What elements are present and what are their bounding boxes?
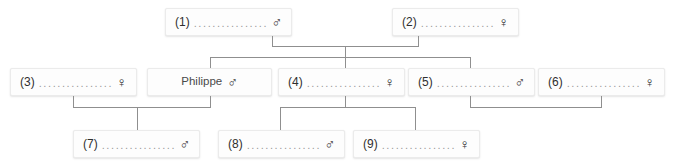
leader-dots: ................. xyxy=(567,77,641,88)
union1-child-drop-4 xyxy=(345,57,346,68)
union1-child-drop-philippe xyxy=(210,57,211,68)
union3-child-drop-8 xyxy=(280,107,281,130)
person-node-3[interactable]: (3) ................. ♀ xyxy=(10,68,137,96)
leader-dots: ................. xyxy=(421,17,495,28)
male-icon: ♂ xyxy=(180,137,191,151)
person-label: (6) xyxy=(548,76,563,88)
person-node-6[interactable]: (6) ................. ♀ xyxy=(538,68,665,96)
female-icon: ♀ xyxy=(645,75,656,89)
person-node-philippe[interactable]: Philippe ♂ xyxy=(147,68,272,96)
person-label: (3) xyxy=(20,76,35,88)
male-icon: ♂ xyxy=(325,137,336,151)
leader-dots: ................. xyxy=(437,77,511,88)
person-node-4[interactable]: (4) ................. ♀ xyxy=(278,68,405,96)
union4-marriage-bar xyxy=(470,107,602,108)
union2-drop-left xyxy=(73,96,74,107)
person-label: (5) xyxy=(418,76,433,88)
male-icon: ♂ xyxy=(227,75,238,89)
leader-dots: ................. xyxy=(39,77,113,88)
person-label: (7) xyxy=(83,138,98,150)
person-name-label: Philippe xyxy=(181,76,222,88)
leader-dots: ................. xyxy=(194,17,268,28)
person-label: (2) xyxy=(402,16,417,28)
person-node-9[interactable]: (9) ................. ♀ xyxy=(353,130,480,158)
female-icon: ♀ xyxy=(385,75,396,89)
union2-marriage-bar xyxy=(73,107,211,108)
person-node-8[interactable]: (8) ................. ♂ xyxy=(218,130,345,158)
person-node-5[interactable]: (5) ................. ♂ xyxy=(408,68,535,96)
female-icon: ♀ xyxy=(460,137,471,151)
person-label: (9) xyxy=(363,138,378,150)
leader-dots: ................. xyxy=(247,139,321,150)
union1-child-drop-5 xyxy=(470,57,471,68)
male-icon: ♂ xyxy=(272,15,283,29)
union3-sibling-bus xyxy=(280,107,416,108)
female-icon: ♀ xyxy=(499,15,510,29)
female-icon: ♀ xyxy=(117,75,128,89)
leader-dots: ................. xyxy=(102,139,176,150)
male-icon: ♂ xyxy=(515,75,526,89)
person-node-1[interactable]: (1) ................. ♂ xyxy=(165,8,292,36)
person-node-2[interactable]: (2) ................. ♀ xyxy=(392,8,519,36)
leader-dots: ................. xyxy=(382,139,456,150)
leader-dots: ................. xyxy=(307,77,381,88)
person-label: (8) xyxy=(228,138,243,150)
union4-drop-right xyxy=(601,96,602,107)
person-node-7[interactable]: (7) ................. ♂ xyxy=(73,130,200,158)
person-label: (4) xyxy=(288,76,303,88)
union1-sibling-bus xyxy=(210,57,471,58)
union2-child-drop-7 xyxy=(137,107,138,130)
union2-drop-right xyxy=(210,96,211,107)
person-label: (1) xyxy=(175,16,190,28)
union4-drop-left xyxy=(470,96,471,107)
family-tree-diagram: (1) ................. ♂ (2) ............… xyxy=(0,0,678,166)
union3-child-drop-9 xyxy=(415,107,416,130)
